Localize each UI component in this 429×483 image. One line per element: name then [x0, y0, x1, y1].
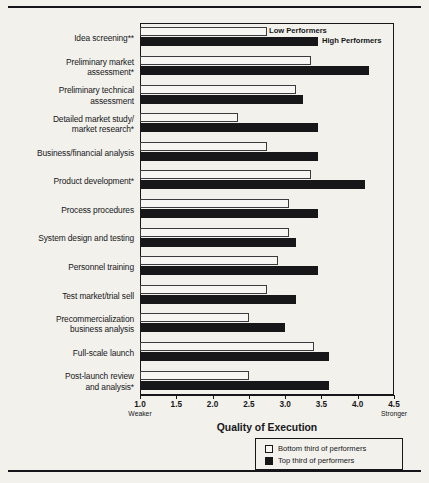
category-label-line: System design and testing [0, 233, 134, 243]
category-label: Process procedures [0, 205, 134, 215]
category-label-line: Preliminary technical [0, 85, 134, 95]
axis-end-label-weaker: Weaker [128, 410, 151, 417]
bar-top-third [140, 180, 365, 189]
x-axis-tick [285, 395, 286, 399]
bar-row: Precommercializationbusiness analysis [0, 309, 429, 338]
category-label: Personnel training [0, 262, 134, 272]
bar-top-third [140, 209, 318, 218]
bar-top-third [140, 295, 296, 304]
category-label: System design and testing [0, 233, 134, 243]
bar-bottom-third [140, 113, 238, 122]
bar-top-third [140, 37, 318, 46]
bar-row: Detailed market study/market research* [0, 109, 429, 138]
x-axis-tick-label: 3.5 [316, 400, 327, 409]
category-label-line: and analysis* [0, 382, 134, 392]
bar-bottom-third [140, 27, 267, 36]
category-label-line: Business/financial analysis [0, 148, 134, 158]
x-axis-tick-label: 1.5 [171, 400, 182, 409]
legend-item-bottom-third: Bottom third of performers [265, 443, 402, 454]
category-label-line: assessment* [0, 67, 134, 77]
bar-row: Full-scale launch [0, 338, 429, 367]
x-axis-tick-label: 3.0 [279, 400, 290, 409]
bar-row: Preliminary marketassessment* [0, 52, 429, 81]
x-axis-tick [249, 395, 250, 399]
bar-row: Preliminary technicalassessment [0, 80, 429, 109]
category-label: Test market/trial sell [0, 291, 134, 301]
x-axis-line [140, 395, 394, 396]
bar-bottom-third [140, 313, 249, 322]
category-label-line: Precommercialization [0, 314, 134, 324]
bar-bottom-third [140, 256, 278, 265]
chart-legend: Bottom third of performers Top third of … [255, 438, 403, 470]
x-axis-tick-label: 4.0 [352, 400, 363, 409]
bar-bottom-third [140, 342, 314, 351]
category-label: Product development* [0, 176, 134, 186]
category-label-line: Product development* [0, 176, 134, 186]
category-label: Precommercializationbusiness analysis [0, 314, 134, 335]
axis-end-label-stronger: Stronger [381, 410, 407, 417]
bar-top-third [140, 238, 296, 247]
x-axis-tick [176, 395, 177, 399]
category-label: Full-scale launch [0, 348, 134, 358]
bar-bottom-third [140, 199, 289, 208]
legend-item-top-third: Top third of performers [265, 455, 402, 466]
bar-bottom-third [140, 56, 311, 65]
bar-top-third [140, 266, 318, 275]
bar-row: Process procedures [0, 195, 429, 224]
category-label: Idea screening** [0, 33, 134, 43]
bar-bottom-third [140, 142, 267, 151]
bar-row: Product development* [0, 166, 429, 195]
category-label-line: Post-launch review [0, 371, 134, 381]
quality-of-execution-bar-chart: Idea screening**Preliminary marketassess… [0, 10, 429, 470]
bar-row: Post-launch reviewand analysis* [0, 366, 429, 395]
bar-top-third [140, 381, 329, 390]
x-axis-tick-label: 1.0 [134, 400, 145, 409]
bar-row: Test market/trial sell [0, 281, 429, 310]
page-rule-bottom [8, 470, 421, 472]
category-label-line: Test market/trial sell [0, 291, 134, 301]
bar-top-third [140, 323, 285, 332]
category-label-line: Process procedures [0, 205, 134, 215]
category-label-line: Preliminary market [0, 57, 134, 67]
x-axis-tick-label: 4.5 [388, 400, 399, 409]
legend-label-bottom-third: Bottom third of performers [278, 444, 366, 453]
bar-bottom-third [140, 371, 249, 380]
page-rule-top [8, 6, 421, 8]
bar-bottom-third [140, 170, 311, 179]
category-label-line: market research* [0, 124, 134, 134]
bar-rows-container: Idea screening**Preliminary marketassess… [0, 23, 429, 395]
category-label: Detailed market study/market research* [0, 114, 134, 135]
x-axis-tick [213, 395, 214, 399]
x-axis-tick-label: 2.5 [243, 400, 254, 409]
category-label: Preliminary technicalassessment [0, 85, 134, 106]
legend-swatch-bottom-third [265, 445, 273, 453]
category-label: Preliminary marketassessment* [0, 57, 134, 78]
category-label-line: Idea screening** [0, 33, 134, 43]
bar-bottom-third [140, 285, 267, 294]
bar-top-third [140, 95, 303, 104]
bar-row: Business/financial analysis [0, 137, 429, 166]
category-label: Post-launch reviewand analysis* [0, 371, 134, 392]
legend-swatch-top-third [265, 457, 273, 465]
bar-row: Personnel training [0, 252, 429, 281]
x-axis-tick [358, 395, 359, 399]
bar-top-third [140, 352, 329, 361]
category-label-line: Full-scale launch [0, 348, 134, 358]
category-label-line: assessment [0, 96, 134, 106]
bar-top-third [140, 152, 318, 161]
legend-label-top-third: Top third of performers [278, 456, 354, 465]
category-label: Business/financial analysis [0, 148, 134, 158]
bar-top-third [140, 66, 369, 75]
x-axis-tick [140, 395, 141, 399]
bar-bottom-third [140, 228, 289, 237]
bar-row: System design and testing [0, 223, 429, 252]
series-callout-high-performers: High Performers [322, 36, 382, 45]
category-label-line: business analysis [0, 324, 134, 334]
bar-top-third [140, 123, 318, 132]
category-label-line: Detailed market study/ [0, 114, 134, 124]
series-callout-low-performers: Low Performers [269, 26, 327, 35]
category-label-line: Personnel training [0, 262, 134, 272]
x-axis-title: Quality of Execution [140, 422, 394, 433]
bar-bottom-third [140, 85, 296, 94]
x-axis-tick-label: 2.0 [207, 400, 218, 409]
